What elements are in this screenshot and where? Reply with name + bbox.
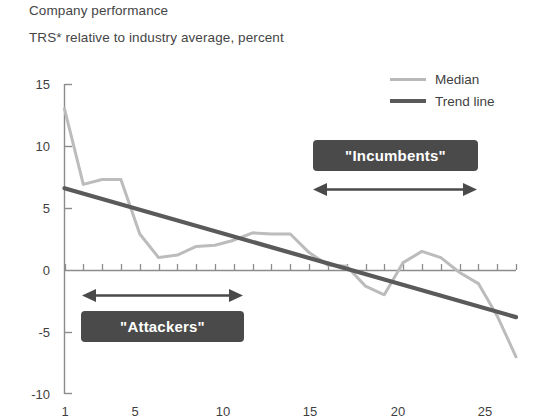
legend-label-median: Median — [435, 72, 479, 87]
legend-swatch-trend-icon — [390, 99, 426, 103]
trend-series-line — [65, 188, 517, 317]
y-tick-label-5: 5 — [10, 201, 50, 216]
legend-label-trend-line: Trend line — [435, 94, 495, 109]
legend-item-median[interactable]: Median — [390, 68, 545, 90]
x-tick-label-15: 15 — [295, 404, 325, 419]
axes — [65, 84, 517, 394]
legend-item-trend-line[interactable]: Trend line — [390, 90, 545, 112]
annotation-incumbents-label: "Incumbents" — [313, 140, 478, 171]
incumbents-arrow — [313, 183, 477, 196]
y-tick-label-15: 15 — [10, 77, 50, 92]
attackers-arrow — [82, 289, 243, 302]
chart-legend: Median Trend line — [390, 68, 545, 112]
x-tick-label-5: 5 — [120, 404, 150, 419]
legend-swatch-median-icon — [390, 78, 426, 81]
chart-canvas — [0, 0, 549, 420]
x-tick-label-20: 20 — [383, 404, 413, 419]
x-tick-label-1: 1 — [50, 404, 80, 419]
y-tick-label-0: 0 — [10, 263, 50, 278]
y-tick-label-minus5: -5 — [10, 325, 50, 340]
chart-page: Company performance TRS* relative to ind… — [0, 0, 549, 420]
annotation-attackers-label: "Attackers" — [81, 311, 244, 342]
x-tick-label-25: 25 — [470, 404, 500, 419]
x-tick-label-10: 10 — [208, 404, 238, 419]
y-tick-label-minus10: -10 — [10, 387, 50, 402]
y-tick-label-10: 10 — [10, 139, 50, 154]
